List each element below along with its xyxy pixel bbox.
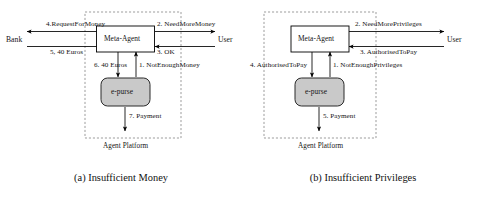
meta-agent-label: Meta-Agent (298, 35, 334, 43)
message-label-2: 2. NeedMoreMoney (157, 21, 215, 28)
message-label-7: 7. Payment (129, 113, 161, 120)
actor-bank-label: Bank (6, 36, 22, 44)
agent-platform-label: Agent Platform (298, 143, 343, 151)
message-label-2: 2. NeedMorePrivileges (355, 21, 422, 28)
figure-root: Bank User Meta-Agent e-purse 4.RequestFo… (0, 0, 484, 198)
panel-b-caption: (b) Insufficient Privileges (242, 172, 484, 183)
meta-agent-label: Meta-Agent (104, 35, 140, 43)
message-label-3: 3. AuthorisedToPay (360, 49, 417, 56)
message-label-6: 6. 40 Euros (94, 62, 127, 69)
e-purse-label: e-purse (111, 88, 133, 96)
actor-user-label: User (447, 36, 462, 44)
diagram-panel-insufficient-privileges: User Meta-Agent e-purse 2. NeedMorePrivi… (242, 0, 484, 198)
agent-platform-label: Agent Platform (103, 143, 148, 151)
panel-a-caption: (a) Insufficient Money (0, 172, 242, 183)
message-label-1: 1. NotEnoughPrivileges (333, 62, 402, 69)
message-label-4: 4. AuthorisedToPay (250, 62, 307, 69)
actor-user-label: User (218, 36, 233, 44)
message-label-5: 5, 40 Euros (50, 49, 83, 56)
e-purse-label: e-purse (305, 88, 327, 96)
message-label-5: 5. Payment (323, 113, 355, 120)
message-label-4: 4.RequestForMoney (46, 21, 105, 28)
message-label-3: 3. OK (157, 49, 175, 56)
message-label-1: 1. NotEnoughMoney (139, 62, 200, 69)
diagram-panel-insufficient-money: Bank User Meta-Agent e-purse 4.RequestFo… (0, 0, 242, 198)
